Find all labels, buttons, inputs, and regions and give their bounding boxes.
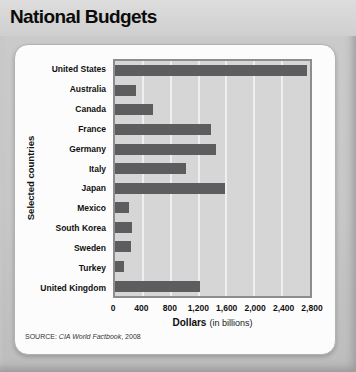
x-tick-label: 2,000 <box>245 303 266 313</box>
bar <box>115 222 132 233</box>
y-axis-label: Selected countries <box>25 136 36 220</box>
bar-row <box>115 81 310 101</box>
x-axis-label-note: (in billions) <box>209 318 252 328</box>
bar-row <box>115 120 310 140</box>
bar-row <box>115 218 310 238</box>
chart-panel: United StatesAustraliaCanadaFranceGerman… <box>14 44 336 355</box>
bar <box>115 202 129 213</box>
x-tick-label: 0 <box>111 303 116 313</box>
x-tick-label: 2,800 <box>301 303 322 313</box>
bar <box>115 65 307 76</box>
bar <box>115 163 186 174</box>
bar-row <box>115 159 310 179</box>
source-prefix: SOURCE: <box>25 333 59 340</box>
x-tick-label: 400 <box>134 303 148 313</box>
bar <box>115 85 136 96</box>
bar-row <box>115 61 310 81</box>
bar-row <box>115 257 310 277</box>
category-label: Sweden <box>19 238 109 258</box>
chart-title: National Budgets <box>10 6 157 28</box>
bar <box>115 261 124 272</box>
bar <box>115 124 211 135</box>
bars <box>115 61 310 296</box>
category-label: Australia <box>19 79 109 99</box>
figure: National Budgets United StatesAustraliaC… <box>0 0 356 372</box>
bar-row <box>115 178 310 198</box>
category-label: Turkey <box>19 258 109 278</box>
bar <box>115 183 225 194</box>
bar-row <box>115 237 310 257</box>
bar <box>115 144 216 155</box>
bar-row <box>115 198 310 218</box>
category-label: United Kingdom <box>19 278 109 298</box>
bar <box>115 241 131 252</box>
category-label: United States <box>19 59 109 79</box>
plot-area <box>113 59 312 298</box>
x-axis-label: Dollars(in billions) <box>103 317 322 328</box>
bar <box>115 281 200 292</box>
bar-row <box>115 276 310 296</box>
figure-header: National Budgets <box>0 0 356 36</box>
x-ticks: 04008001,2001,6002,0002,4002,800 <box>113 303 312 313</box>
bar <box>115 104 153 115</box>
category-label: South Korea <box>19 218 109 238</box>
bar-row <box>115 139 310 159</box>
x-tick-label: 2,400 <box>273 303 294 313</box>
bar-row <box>115 100 310 120</box>
source-note: SOURCE: CIA World Factbook, 2008 <box>25 333 141 340</box>
x-tick-label: 800 <box>163 303 177 313</box>
source-suffix: , 2008 <box>121 333 140 340</box>
x-tick-label: 1,200 <box>188 303 209 313</box>
category-label: Canada <box>19 99 109 119</box>
source-work: CIA World Factbook <box>59 333 121 340</box>
x-tick-label: 1,600 <box>216 303 237 313</box>
x-axis-label-main: Dollars <box>173 317 207 328</box>
